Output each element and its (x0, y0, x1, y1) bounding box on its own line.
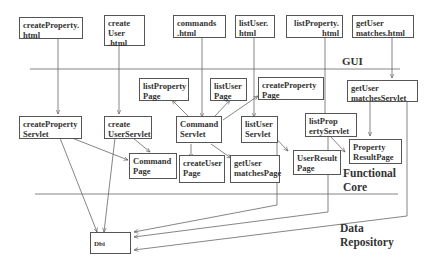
PropertyResultPage-box: Property ResultPage (349, 139, 402, 164)
commands-html-box: commands .html (173, 15, 226, 38)
CommandPage-box: Command Page (129, 153, 177, 179)
Dbi-box: Dbi (90, 232, 131, 254)
listPropertyPage-box: listProperty Page (139, 78, 189, 101)
getUsermatches-html-box: getUser matches.html (352, 15, 414, 38)
functional-core-layer-label: Functional Core (343, 167, 396, 195)
listPropertyServlet-box: listProp ertyServlet (305, 113, 357, 137)
architecture-diagram: createProperty. html create User .html c… (0, 0, 430, 267)
getUsermatchesPage-box: getUser matchesPage (230, 155, 280, 183)
gui-layer-label: GUI (342, 55, 363, 68)
CommandServlet-box: Command Servlet (176, 116, 222, 143)
createPropertyPage-box: createProperty Page (258, 77, 324, 100)
data-repository-layer-label: Data Repository (340, 222, 394, 250)
createUserServlet-box: create UserServlet (104, 116, 152, 139)
createProperty-html-box: createProperty. html (19, 17, 83, 39)
listUserPage-box: listUser Page (210, 78, 247, 101)
createUserPage-box: createUser Page (179, 155, 225, 183)
UserResultPage-box: UserResult Page (293, 150, 341, 175)
listUser-html-box: listUser. html (235, 15, 275, 38)
listUserServlet-box: listUser Servlet (241, 116, 278, 143)
createPropertyServlet-box: createProperty Servlet (19, 116, 82, 139)
createUser-html-box: create User .html (104, 15, 145, 46)
listProperty-html-box: listProperty. html (286, 15, 343, 38)
getUsermatchesServlet-box: getUser matchesServlet (347, 80, 418, 102)
